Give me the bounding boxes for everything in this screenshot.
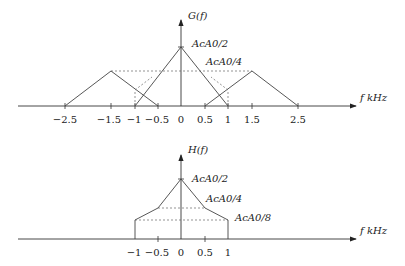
left-triangle (65, 71, 158, 106)
top-xlabel: f kHz (359, 92, 388, 103)
bottom-tick: −1 (127, 247, 142, 258)
bottom-edge-label: AcA0/8 (234, 212, 271, 223)
bottom-tick: 1 (225, 247, 231, 258)
top-tick: 1 (225, 114, 231, 125)
bottom-tick: 0.5 (197, 247, 213, 258)
spectrum-diagram: G(f) AcA0/2 AcA0/4 f kHz −2.5 −1.5 −1 −0… (0, 0, 405, 266)
top-tick: −1 (127, 114, 142, 125)
right-triangle (205, 71, 298, 106)
h-response (135, 179, 228, 239)
top-tick: 1.5 (244, 114, 260, 125)
bottom-peak-label: AcA0/2 (191, 173, 228, 184)
bottom-mid-label: AcA0/4 (205, 193, 242, 204)
top-side-label: AcA0/4 (205, 56, 242, 67)
top-tick: 0.5 (197, 114, 213, 125)
bottom-ylabel: H(f) (187, 144, 208, 155)
top-tick: −1.5 (97, 114, 121, 125)
bottom-tick: 0 (178, 247, 184, 258)
top-peak-label: AcA0/2 (191, 38, 228, 49)
top-chart: G(f) AcA0/2 AcA0/4 f kHz −2.5 −1.5 −1 −0… (18, 10, 388, 125)
top-tick: 0 (178, 114, 184, 125)
bottom-chart: H(f) AcA0/2 AcA0/4 AcA0/8 f kHz −1 −0.5 … (18, 144, 388, 258)
bottom-xlabel: f kHz (359, 225, 388, 236)
bottom-tick: −0.5 (145, 247, 169, 258)
top-tick: −0.5 (145, 114, 169, 125)
top-ylabel: G(f) (188, 10, 208, 21)
top-tick: −2.5 (53, 114, 77, 125)
top-tick: 2.5 (290, 114, 306, 125)
